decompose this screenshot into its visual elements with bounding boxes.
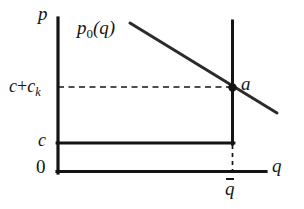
x-tick-label-q-bar: q (225, 178, 235, 198)
y-axis-label: p (38, 4, 48, 23)
p0q-part-p: p (77, 17, 87, 38)
y-tick-label-c: c (38, 131, 46, 149)
demand-curve-label: p0(q) (77, 18, 115, 41)
x-axis-label: q (272, 156, 282, 175)
cck-part-subscript-k: k (35, 85, 40, 99)
cck-part-c2: c (27, 76, 35, 96)
point-a-label: a (241, 74, 251, 93)
q-bar-glyph: q (225, 178, 235, 198)
diagram-canvas (0, 0, 304, 209)
p0q-part-tail: (q) (93, 17, 115, 38)
demand-curve (130, 23, 277, 113)
price-quantity-diagram: p q 0 c c+ck a p0(q) q (0, 0, 304, 209)
cck-part-c: c (9, 76, 17, 96)
point-a-marker (228, 83, 236, 91)
origin-label: 0 (36, 157, 46, 176)
cck-part-plus: + (17, 76, 27, 96)
y-tick-label-c-plus-ck: c+ck (9, 77, 41, 98)
